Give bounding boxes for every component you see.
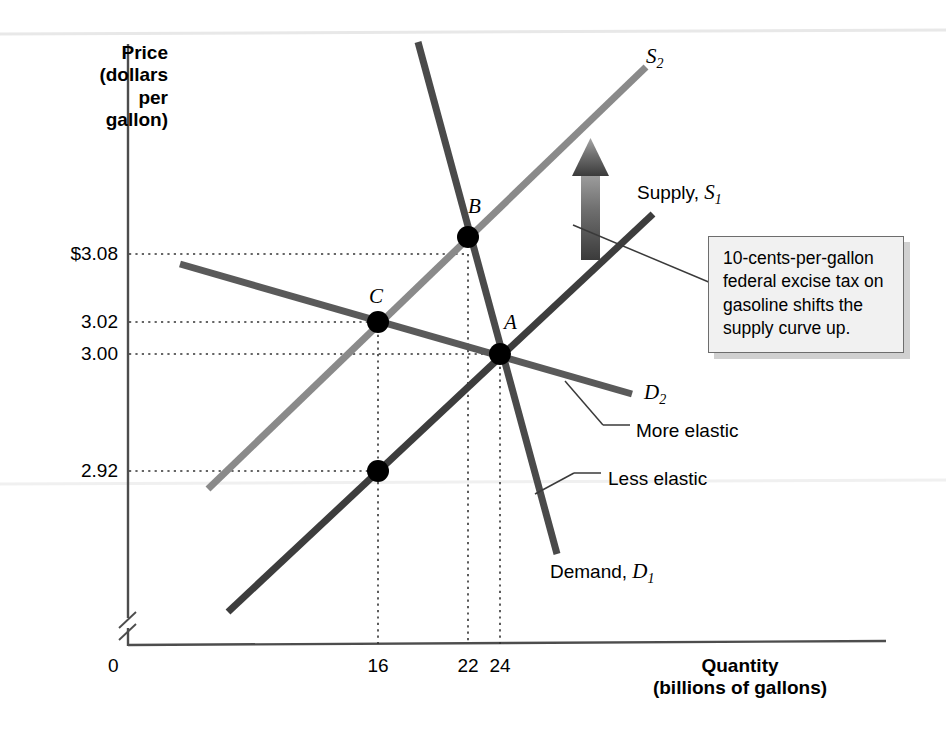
curve-label-demand-subscript: 1 [648, 571, 655, 586]
callout-annotation-box: 10-cents-per-gallon federal excise tax o… [708, 236, 904, 353]
curve-label-supply-s1: Supply, S1 [637, 180, 722, 209]
x-axis-title-line1: Quantity [600, 655, 880, 677]
y-axis-title-line2: (dollars [40, 64, 168, 86]
data-point-d1-low [367, 460, 389, 482]
page-edge-bottom [0, 480, 946, 484]
point-label-b: B [468, 194, 481, 219]
point-label-c: C [369, 284, 383, 309]
curve-demand-d2 [180, 264, 632, 394]
x-tick-label-16: 16 [348, 655, 408, 677]
x-tick-label-24: 24 [470, 655, 530, 677]
curve-label-d2: D2 [644, 380, 666, 409]
x-axis [128, 641, 886, 645]
curve-label-demand-word: Demand, [550, 561, 627, 582]
curve-label-d2-subscript: 2 [659, 392, 666, 407]
x-axis-title: Quantity (billions of gallons) [600, 655, 880, 700]
curve-label-d2-symbol: D [644, 380, 659, 404]
curve-label-demand-d1: Demand, D1 [550, 559, 655, 588]
y-tick-label-292: 2.92 [22, 460, 118, 482]
y-axis-title-line1: Price [40, 42, 168, 64]
data-point-a [489, 343, 511, 365]
origin-label: 0 [108, 655, 119, 677]
annotation-less-elastic: Less elastic [608, 468, 707, 490]
y-tick-label-308: $3.08 [22, 243, 118, 265]
curve-label-supply-symbol: S [704, 180, 715, 204]
curve-label-s2-symbol: S [646, 44, 657, 68]
page-edge-top [0, 30, 946, 34]
callout-text: 10-cents-per-gallon federal excise tax o… [723, 248, 884, 338]
curve-label-supply-subscript: 1 [715, 192, 722, 207]
y-tick-label-302: 3.02 [22, 311, 118, 333]
data-point-c [367, 311, 389, 333]
curve-label-s2: S2 [646, 44, 664, 73]
y-axis-title: Price (dollars per gallon) [40, 42, 168, 132]
y-tick-label-300: 3.00 [22, 343, 118, 365]
curve-demand-d1 [418, 42, 557, 554]
y-axis-title-line3: per [40, 87, 168, 109]
curve-label-s2-subscript: 2 [657, 56, 664, 71]
economics-graph-figure: Price (dollars per gallon) Quantity (bil… [0, 0, 946, 742]
point-label-a: A [504, 310, 517, 335]
curve-label-supply-word: Supply, [637, 182, 699, 203]
shift-up-arrow-icon [572, 138, 609, 260]
curve-label-demand-symbol: D [632, 559, 647, 583]
x-axis-title-line2: (billions of gallons) [600, 677, 880, 699]
y-axis-title-line4: gallon) [40, 109, 168, 131]
data-point-b [457, 226, 479, 248]
annotation-more-elastic: More elastic [636, 420, 738, 442]
